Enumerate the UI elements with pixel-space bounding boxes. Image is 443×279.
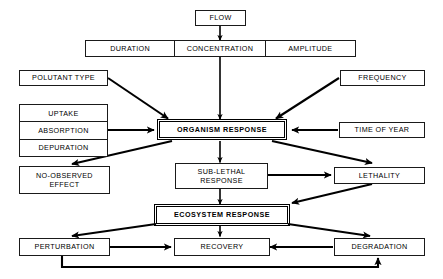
node-uptake-label: UPTAKE <box>48 109 78 118</box>
node-polutant-type-label: POLUTANT TYPE <box>32 73 95 82</box>
node-frequency[interactable]: FREQUENCY <box>340 70 425 86</box>
node-organism-response[interactable]: ORGANISM RESPONSE <box>159 121 285 138</box>
node-concentration[interactable]: CONCENTRATION <box>175 41 265 56</box>
node-ecosystem-response-label: ECOSYSTEM RESPONSE <box>174 210 270 219</box>
node-perturbation-label: PERTURBATION <box>35 242 95 251</box>
node-duration[interactable]: DURATION <box>86 41 175 56</box>
node-ecosystem-response[interactable]: ECOSYSTEM RESPONSE <box>156 206 288 224</box>
node-sub-lethal-response-label: SUB-LETHAL RESPONSE <box>198 167 246 185</box>
node-concentration-label: CONCENTRATION <box>187 44 254 53</box>
node-degradation[interactable]: DEGRADATION <box>334 238 425 256</box>
node-absorption-label: ABSORPTION <box>38 126 89 135</box>
node-lethality[interactable]: LETHALITY <box>334 167 425 184</box>
node-duration-label: DURATION <box>110 44 150 53</box>
node-no-observed-effect-label: NO-OBSERVED EFFECT <box>36 171 93 189</box>
node-flow[interactable]: FLOW <box>195 10 246 26</box>
node-recovery[interactable]: RECOVERY <box>174 238 270 256</box>
node-uptake[interactable]: UPTAKE <box>20 105 107 122</box>
node-frequency-label: FREQUENCY <box>358 73 406 82</box>
node-polutant-type[interactable]: POLUTANT TYPE <box>19 70 108 86</box>
exposure-attribute-row: DURATION CONCENTRATION AMPLITUDE <box>85 40 356 57</box>
node-time-of-year[interactable]: TIME OF YEAR <box>339 122 425 138</box>
node-lethality-label: LETHALITY <box>359 171 401 180</box>
node-perturbation[interactable]: PERTURBATION <box>19 238 110 256</box>
node-depuration-label: DEPURATION <box>38 143 88 152</box>
node-degradation-label: DEGRADATION <box>351 242 407 251</box>
node-no-observed-effect[interactable]: NO-OBSERVED EFFECT <box>19 166 110 194</box>
kinetics-stack: UPTAKE ABSORPTION DEPURATION <box>19 104 108 157</box>
node-depuration[interactable]: DEPURATION <box>20 140 107 156</box>
node-organism-response-label: ORGANISM RESPONSE <box>177 125 267 134</box>
node-amplitude[interactable]: AMPLITUDE <box>266 41 355 56</box>
node-amplitude-label: AMPLITUDE <box>288 44 332 53</box>
node-recovery-label: RECOVERY <box>200 242 243 251</box>
node-absorption[interactable]: ABSORPTION <box>20 122 107 139</box>
node-flow-label: FLOW <box>209 13 231 22</box>
flowchart-canvas: FLOW DURATION CONCENTRATION AMPLITUDE PO… <box>0 0 443 279</box>
node-sub-lethal-response[interactable]: SUB-LETHAL RESPONSE <box>175 163 268 189</box>
node-time-of-year-label: TIME OF YEAR <box>355 125 410 134</box>
